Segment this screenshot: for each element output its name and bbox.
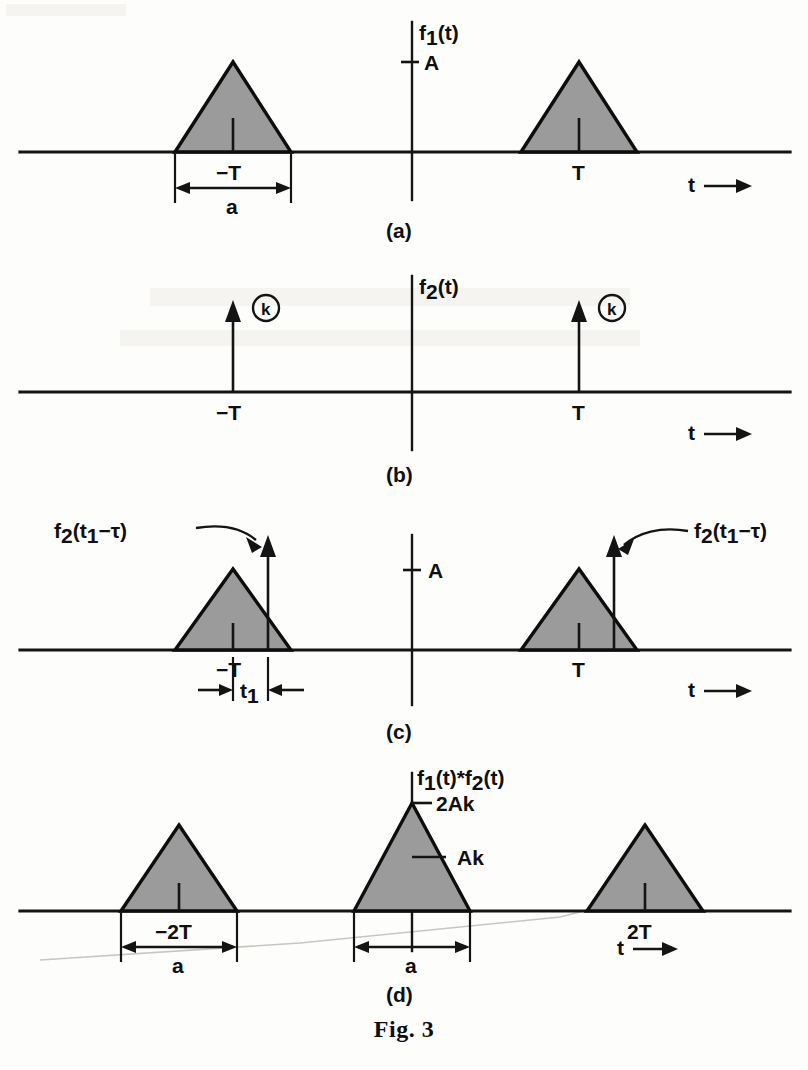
panel-a-letter: (a) <box>386 219 412 242</box>
panel-b: f2(t) k k −T T t (b) <box>0 250 808 505</box>
label-T: T <box>572 161 585 184</box>
panel-d-y-axis-label: f1(t)*f2(t) <box>417 766 505 794</box>
panel-c-x-axis-label: t <box>688 678 695 701</box>
dim-arrowhead-left-1 <box>121 941 136 953</box>
panel-d-letter: (d) <box>386 983 413 1006</box>
t-axis-arrowhead <box>736 179 752 193</box>
impulse-strength-label-left: k <box>261 300 271 319</box>
label-2T: 2T <box>627 920 652 943</box>
panel-a-x-axis-label: t <box>688 173 695 196</box>
shifted-impulse-arrowhead-left <box>260 535 276 557</box>
t1-arrowhead-left <box>219 684 233 696</box>
panel-d-x-axis-label: t <box>617 936 624 959</box>
label-T: T <box>572 658 585 681</box>
annotation-arrowhead-right <box>618 539 634 555</box>
scan-artifact-line <box>40 907 600 960</box>
panel-a: A f1(t) −T T a t (a) <box>0 0 808 250</box>
label-minus-2T: −2T <box>155 920 192 943</box>
label-minus-T: −T <box>216 401 241 424</box>
panel-c-letter: (c) <box>386 720 412 743</box>
panel-a-y-axis-label: f1(t) <box>419 21 459 49</box>
impulse-arrowhead-left <box>225 300 241 322</box>
t1-arrowhead-right <box>268 684 282 696</box>
label-minus-T: −T <box>216 161 241 184</box>
panel-b-letter: (b) <box>386 463 413 486</box>
panel-d: f1(t)*f2(t) 2Ak Ak −2T 2T a a <box>0 755 808 1017</box>
amplitude-label: A <box>428 559 443 582</box>
t-axis-arrowhead <box>736 684 752 698</box>
figure-caption: Fig. 3 <box>0 1016 808 1043</box>
dim-label-center-a: a <box>405 954 417 977</box>
label-minus-T: −T <box>216 658 241 681</box>
dimension-arrowhead-right <box>276 182 291 194</box>
impulse-arrowhead-right <box>571 300 587 322</box>
figure-container: A f1(t) −T T a t (a) f2(t) <box>0 0 808 1070</box>
dim-arrowhead-center-1 <box>354 941 369 953</box>
mid-label-Ak: Ak <box>457 846 484 869</box>
dim-label-left-a: a <box>172 954 184 977</box>
dim-arrowhead-center-2 <box>455 941 470 953</box>
annotation-label-left: f2(t1−τ) <box>54 519 127 547</box>
annotation-label-right: f2(t1−τ) <box>694 519 767 547</box>
impulse-strength-label-right: k <box>607 300 617 319</box>
dim-arrowhead-left-2 <box>222 941 237 953</box>
shifted-impulse-arrowhead-right <box>606 535 622 557</box>
t1-dimension-label: t1 <box>240 679 259 707</box>
amplitude-label: A <box>424 51 439 74</box>
panel-b-x-axis-label: t <box>688 421 695 444</box>
dimension-label-a: a <box>226 195 238 218</box>
t-axis-arrowhead <box>662 942 678 956</box>
dimension-arrowhead-left <box>175 182 190 194</box>
annotation-curve-right <box>624 529 688 545</box>
t-axis-arrowhead <box>736 427 752 441</box>
panel-c: A f2(t1−τ) f2(t1−τ) −T T <box>0 505 808 755</box>
peak-label-2Ak: 2Ak <box>436 792 475 815</box>
label-T: T <box>572 401 585 424</box>
panel-b-y-axis-label: f2(t) <box>419 275 459 303</box>
